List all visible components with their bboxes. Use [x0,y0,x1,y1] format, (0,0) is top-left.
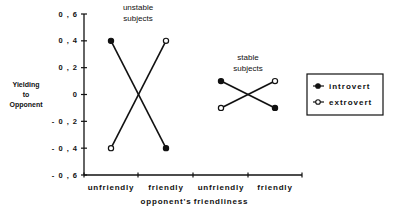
introvert-marker [108,38,113,43]
introvert-marker [218,78,223,83]
y-axis-title-line: Opponent [9,101,43,109]
group-label: subjects [123,14,152,23]
axes [84,14,302,178]
extrovert-marker [272,78,277,83]
introvert-marker [163,146,168,151]
x-axis-category-labels: unfriendlyfriendlyunfriendlyfriendly [88,183,293,192]
y-axis-title-line: Yielding [13,81,40,89]
y-tick-label: 0 , 6 [58,10,78,19]
x-category-label: friendly [148,183,183,192]
y-axis-title-line: to [23,91,30,98]
group-label: unstable [123,3,154,12]
introvert-legend-marker-icon [316,84,321,89]
x-axis-title-line1: opponent's [141,197,192,206]
legend-box [307,74,383,115]
y-axis-ticks: 0 , 60 , 40 , 20- 0 , 2- 0 , 4- 0 , 6 [52,10,87,180]
y-tick-label: - 0 , 6 [52,171,78,180]
y-tick-label: 0 , 4 [58,36,78,45]
x-axis-title-line2: friendliness [194,197,249,206]
y-tick-label: - 0 , 4 [52,144,78,153]
y-axis-title: YieldingtoOpponent [9,81,43,109]
x-category-label: unfriendly [198,183,245,192]
extrovert-marker [163,38,168,43]
introvert-marker [272,105,277,110]
interaction-line-chart: 0 , 60 , 40 , 20- 0 , 2- 0 , 4- 0 , 6 Yi… [0,0,393,216]
extrovert-legend-marker-icon [316,100,321,105]
y-tick-label: 0 , 2 [58,63,78,72]
y-tick-label: 0 [73,90,78,99]
x-category-label: friendly [257,183,292,192]
legend: introvertextrovert [307,74,383,115]
legend-label: introvert [329,82,370,91]
x-category-label: unfriendly [88,183,135,192]
legend-label: extrovert [329,98,372,107]
extrovert-marker [108,146,113,151]
extrovert-marker [218,105,223,110]
y-tick-label: - 0 , 2 [52,117,78,126]
group-label: stable [237,53,259,62]
group-annotations: unstablesubjectsstablesubjects [123,3,263,73]
group-label: subjects [233,64,262,73]
